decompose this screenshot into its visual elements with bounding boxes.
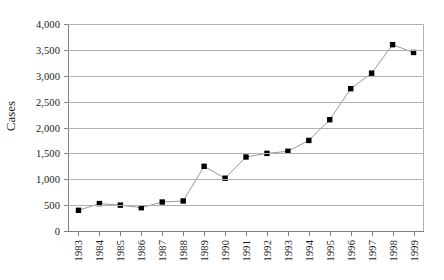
x-axis-tick-mark — [267, 232, 268, 236]
x-axis-tick-label: 1995 — [324, 240, 335, 261]
x-axis-tick-labels: 1983198419851986198719881989199019911992… — [68, 232, 424, 280]
x-axis-tick-mark — [225, 232, 226, 236]
x-axis-tick-mark — [120, 232, 121, 236]
x-axis-tick-mark — [141, 232, 142, 236]
y-axis-tick-label: 1,000 — [36, 174, 60, 185]
y-axis-tick-mark — [64, 153, 68, 154]
y-axis-tick-label: 1,500 — [36, 148, 60, 159]
data-point-marker — [306, 138, 311, 143]
gridline — [68, 50, 423, 51]
x-axis-tick-mark — [288, 232, 289, 236]
gridline — [68, 24, 423, 25]
y-axis-tick-mark — [64, 76, 68, 77]
x-axis-tick-label: 1996 — [345, 240, 356, 261]
gridline — [68, 102, 423, 103]
y-axis-tick-label: 4,000 — [36, 19, 60, 30]
x-axis-tick-label: 1986 — [136, 240, 147, 261]
gridline — [68, 205, 423, 206]
x-axis-tick-label: 1990 — [220, 240, 231, 261]
gridline — [68, 179, 423, 180]
y-axis-tick-mark — [64, 24, 68, 25]
data-point-marker — [160, 199, 165, 204]
y-axis-tick-label: 3,500 — [36, 44, 60, 55]
x-axis-tick-mark — [162, 232, 163, 236]
x-axis-tick-label: 1994 — [303, 240, 314, 261]
x-axis-tick-label: 1984 — [94, 240, 105, 261]
data-point-marker — [201, 164, 206, 169]
x-axis-tick-mark — [351, 232, 352, 236]
data-point-marker — [327, 117, 332, 122]
x-axis-tick-mark — [246, 232, 247, 236]
y-axis-tick-mark — [64, 231, 68, 232]
x-axis-tick-label: 1983 — [73, 240, 84, 261]
x-axis-tick-mark — [414, 232, 415, 236]
data-point-marker — [76, 208, 81, 213]
y-axis-tick-label: 2,000 — [36, 122, 60, 133]
x-axis-tick-label: 1985 — [115, 240, 126, 261]
y-axis-title-label: Cases — [3, 101, 19, 131]
x-axis-tick-mark — [183, 232, 184, 236]
gridline — [68, 128, 423, 129]
x-axis-tick-label: 1991 — [241, 240, 252, 261]
x-axis-tick-label: 1987 — [157, 240, 168, 261]
x-axis-tick-mark — [393, 232, 394, 236]
y-axis-tick-label: 2,500 — [36, 96, 60, 107]
x-axis-tick-mark — [78, 232, 79, 236]
x-axis-tick-label: 1998 — [387, 240, 398, 261]
x-axis-tick-label: 1992 — [261, 240, 272, 261]
x-axis-tick-mark — [99, 232, 100, 236]
x-axis-tick-label: 1997 — [366, 240, 377, 261]
y-axis-title: Cases — [0, 0, 22, 232]
y-axis-tick-label: 3,000 — [36, 70, 60, 81]
x-axis-tick-mark — [372, 232, 373, 236]
y-axis-tick-mark — [64, 50, 68, 51]
line-chart: Cases 4,0003,5003,0002,5002,0001,5001,00… — [0, 0, 444, 280]
x-axis-tick-label: 1993 — [282, 240, 293, 261]
y-axis-tick-mark — [64, 102, 68, 103]
x-axis-tick-label: 1999 — [408, 240, 419, 261]
data-point-marker — [348, 86, 353, 91]
data-point-marker — [390, 42, 395, 47]
y-axis-tick-labels: 4,0003,5003,0002,5002,0001,5001,0005000 — [22, 0, 64, 248]
x-axis-tick-label: 1988 — [178, 240, 189, 261]
y-axis-tick-mark — [64, 179, 68, 180]
x-axis-tick-mark — [330, 232, 331, 236]
data-point-marker — [243, 154, 248, 159]
x-axis-tick-mark — [309, 232, 310, 236]
gridline — [68, 76, 423, 77]
data-point-marker — [180, 198, 185, 203]
y-axis-tick-label: 0 — [55, 226, 60, 237]
y-axis-tick-mark — [64, 205, 68, 206]
plot-area — [68, 24, 424, 231]
x-axis-tick-mark — [204, 232, 205, 236]
y-axis-tick-label: 500 — [44, 200, 60, 211]
x-axis-tick-label: 1989 — [199, 240, 210, 261]
gridline — [68, 153, 423, 154]
y-axis-tick-mark — [64, 128, 68, 129]
